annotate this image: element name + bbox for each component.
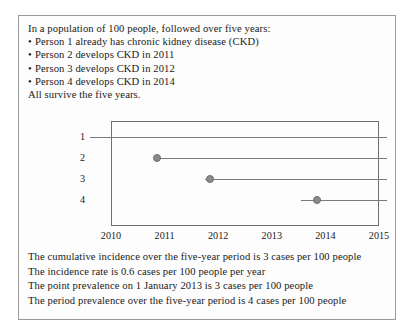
figure-panel: In a population of 100 people, followed … bbox=[18, 15, 396, 320]
conclusion-point-prevalence: The point prevalence on 1 January 2013 i… bbox=[28, 279, 386, 294]
bullet-marker-icon: • bbox=[28, 62, 32, 75]
onset-marker-dot bbox=[153, 154, 161, 162]
x-axis-tick-label: 2012 bbox=[198, 231, 238, 241]
premise-bullet-label: Person 2 develops CKD in 2011 bbox=[35, 49, 175, 60]
y-axis-tick-label: 2 bbox=[71, 153, 85, 163]
y-axis-tick-label: 4 bbox=[71, 195, 85, 205]
bullet-marker-icon: • bbox=[28, 48, 32, 61]
premise-bullet-label: Person 1 already has chronic kidney dise… bbox=[35, 36, 259, 47]
premise-block: In a population of 100 people, followed … bbox=[28, 22, 384, 101]
premise-bullet-label: Person 3 develops CKD in 2012 bbox=[35, 63, 175, 74]
x-axis-tick-label: 2013 bbox=[252, 231, 292, 241]
x-axis-tick-label: 2011 bbox=[145, 231, 185, 241]
premise-bullet-item: • Person 2 develops CKD in 2011 bbox=[28, 48, 384, 61]
person-timeline-track bbox=[205, 179, 387, 180]
premise-bullet-label: Person 4 develops CKD in 2014 bbox=[35, 76, 175, 87]
person-timeline-track bbox=[90, 137, 387, 138]
timeline-chart: 1234201020112012201320142015 bbox=[19, 116, 395, 249]
bullet-marker-icon: • bbox=[28, 35, 32, 48]
y-axis-tick-label: 1 bbox=[71, 132, 85, 142]
x-axis-tick-label: 2010 bbox=[91, 231, 131, 241]
conclusion-period-prevalence: The period prevalence over the five-year… bbox=[28, 294, 386, 309]
conclusion-incidence-rate: The incidence rate is 0.6 cases per 100 … bbox=[28, 265, 386, 280]
x-axis-tick-label: 2014 bbox=[305, 231, 345, 241]
premise-closing: All survive the five years. bbox=[28, 88, 384, 101]
premise-bullet-item: • Person 1 already has chronic kidney di… bbox=[28, 35, 384, 48]
premise-intro: In a population of 100 people, followed … bbox=[28, 22, 384, 35]
onset-marker-dot bbox=[206, 175, 214, 183]
conclusions-block: The cumulative incidence over the five-y… bbox=[28, 250, 386, 308]
premise-bullet-item: • Person 4 develops CKD in 2014 bbox=[28, 75, 384, 88]
person-timeline-track bbox=[157, 158, 387, 159]
conclusion-cumulative-incidence: The cumulative incidence over the five-y… bbox=[28, 250, 386, 265]
x-axis-tick-label: 2015 bbox=[359, 231, 399, 241]
bullet-marker-icon: • bbox=[28, 75, 32, 88]
y-axis-tick-label: 3 bbox=[71, 174, 85, 184]
premise-bullet-item: • Person 3 develops CKD in 2012 bbox=[28, 62, 384, 75]
